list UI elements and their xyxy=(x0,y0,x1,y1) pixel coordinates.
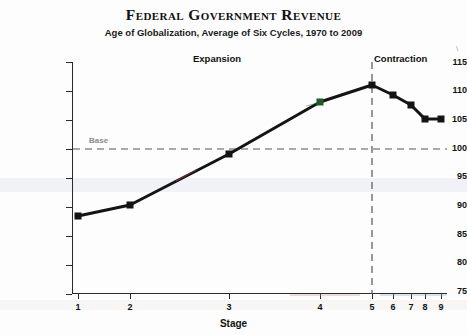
chart-page: Federal Government Revenue Age of Global… xyxy=(0,0,467,335)
scan-edge-mark: \ xyxy=(456,44,458,53)
chart-svg xyxy=(0,0,467,335)
revenue-series-line xyxy=(78,85,441,216)
data-point-6 xyxy=(390,92,397,99)
data-point-2 xyxy=(127,202,134,209)
data-point-3 xyxy=(226,151,233,158)
scan-speckle-red xyxy=(176,170,196,181)
data-point-4 xyxy=(317,99,324,106)
data-point-7 xyxy=(408,102,415,109)
data-point-9 xyxy=(438,116,445,123)
data-point-1 xyxy=(75,213,82,220)
data-point-5 xyxy=(369,82,376,89)
data-point-8 xyxy=(422,116,429,123)
